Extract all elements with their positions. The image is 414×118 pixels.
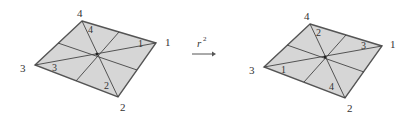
corner-label-right: 1 (390, 38, 396, 50)
corner-label-top: 4 (77, 7, 83, 19)
corner-label-left: 3 (20, 62, 26, 74)
inner-label-right: 3 (361, 40, 366, 51)
corner-label-right: 1 (165, 36, 171, 48)
inner-label-bottom: 2 (104, 80, 109, 91)
inner-label-bottom: 4 (329, 81, 334, 92)
diagram-canvas: 4 1 2 3 4 1 2 3 r 2 4 1 2 3 2 3 4 1 (0, 0, 414, 118)
arrow-head-icon (212, 52, 216, 57)
center-point (324, 56, 327, 59)
inner-label-right: 1 (138, 38, 143, 49)
corner-label-bottom: 2 (120, 101, 126, 113)
inner-label-top: 4 (88, 24, 93, 35)
inner-label-left: 3 (52, 62, 57, 73)
operation-symbol: r (197, 37, 202, 49)
rotation-arrow: r 2 (192, 35, 216, 57)
inner-label-top: 2 (316, 27, 321, 38)
inner-label-left: 1 (281, 64, 286, 75)
square-after: 4 1 2 3 2 3 4 1 (249, 10, 396, 114)
corner-label-top: 4 (304, 10, 310, 22)
operation-exponent: 2 (203, 35, 207, 43)
center-point (96, 53, 99, 56)
corner-label-left: 3 (249, 64, 255, 76)
corner-label-bottom: 2 (347, 102, 353, 114)
square-before: 4 1 2 3 4 1 2 3 (20, 7, 171, 113)
